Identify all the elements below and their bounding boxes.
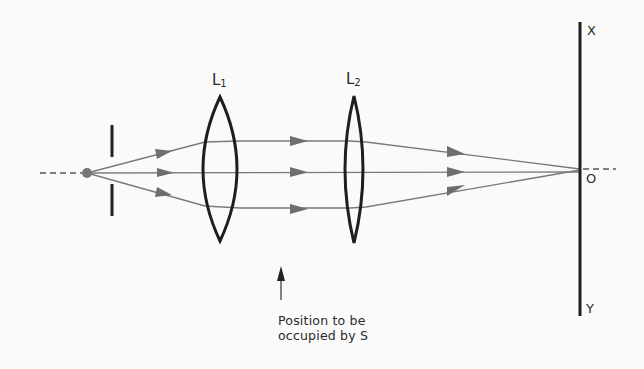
screen-origin-label-o: O: [586, 172, 596, 185]
lens-1: [203, 97, 237, 241]
lens-1-label: L1: [212, 73, 227, 89]
lens-2: [345, 96, 363, 243]
caption-line-1: Position to be: [278, 313, 368, 328]
source-point: [82, 168, 92, 178]
screen-top-label-x: X: [587, 24, 596, 37]
position-caption: Position to be occupied by S: [278, 313, 368, 343]
arrowhead-icon: [447, 167, 465, 177]
arrowhead-icon: [155, 149, 172, 159]
arrowhead-icon: [290, 136, 308, 146]
lens-2-label: L2: [346, 72, 361, 88]
arrowhead-icon: [290, 167, 308, 177]
ray-upper: [87, 141, 580, 173]
arrowhead-icon: [157, 168, 174, 177]
screen-bottom-label-y: Y: [586, 302, 594, 315]
up-arrow-icon: [277, 266, 285, 281]
ray-arrowheads: [155, 136, 465, 214]
position-indicator-arrow: [277, 266, 285, 300]
arrowhead-icon: [447, 146, 465, 157]
caption-line-2: occupied by S: [278, 328, 368, 343]
arrowhead-icon: [290, 204, 308, 214]
optics-diagram: L1 L2 X O Y Position to be occupied by S: [0, 0, 644, 369]
